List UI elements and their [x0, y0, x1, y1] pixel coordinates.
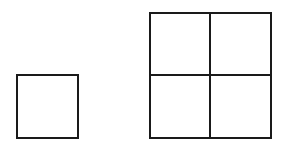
single-square	[16, 74, 79, 139]
grid-horizontal-divider	[149, 74, 272, 76]
